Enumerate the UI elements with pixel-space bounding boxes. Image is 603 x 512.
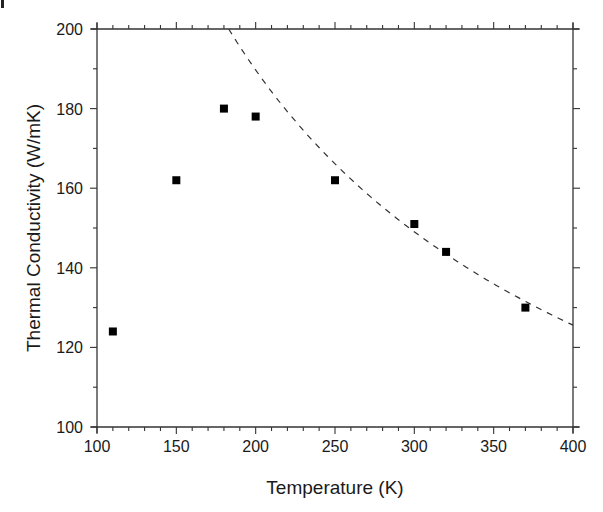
y-tick-label: 100 [56, 419, 83, 436]
x-tick-label: 350 [480, 438, 507, 455]
y-axis-ticks: 100120140160180200 [56, 21, 580, 436]
fit-curve [229, 29, 573, 325]
y-tick-label: 200 [56, 21, 83, 38]
x-tick-label: 300 [401, 438, 428, 455]
plot-axes [91, 23, 579, 433]
x-tick-label: 150 [163, 438, 190, 455]
y-tick-label: 140 [56, 260, 83, 277]
data-point-marker [521, 304, 529, 312]
x-tick-label: 200 [242, 438, 269, 455]
data-point-marker [331, 176, 339, 184]
y-tick-label: 180 [56, 101, 83, 118]
data-point-marker [172, 176, 180, 184]
data-points [109, 105, 530, 336]
y-tick-label: 160 [56, 180, 83, 197]
x-tick-label: 400 [560, 438, 587, 455]
data-point-marker [220, 105, 228, 113]
data-point-marker [442, 248, 450, 256]
x-axis-title: Temperature (K) [266, 477, 403, 498]
fit-dashed-line [229, 29, 573, 325]
x-tick-label: 250 [322, 438, 349, 455]
data-point-marker [109, 327, 117, 335]
y-tick-label: 120 [56, 339, 83, 356]
data-point-marker [410, 220, 418, 228]
y-axis-title: Thermal Conductivity (W/mK) [23, 104, 44, 352]
chart: 100150200250300350400 100120140160180200… [0, 0, 603, 512]
x-axis-ticks: 100150200250300350400 [84, 22, 587, 455]
panel-label-fragment [1, 0, 4, 8]
x-tick-label: 100 [84, 438, 111, 455]
data-point-marker [252, 113, 260, 121]
